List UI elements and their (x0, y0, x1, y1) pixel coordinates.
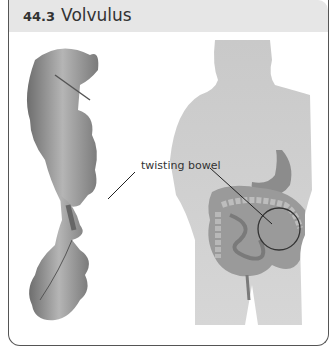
leader-line-left (108, 172, 135, 199)
volvulus-illustration (0, 0, 330, 352)
colon-illustration (27, 49, 98, 321)
torso-silhouette (170, 40, 312, 325)
twisting-bowel-label: twisting bowel (141, 159, 220, 172)
